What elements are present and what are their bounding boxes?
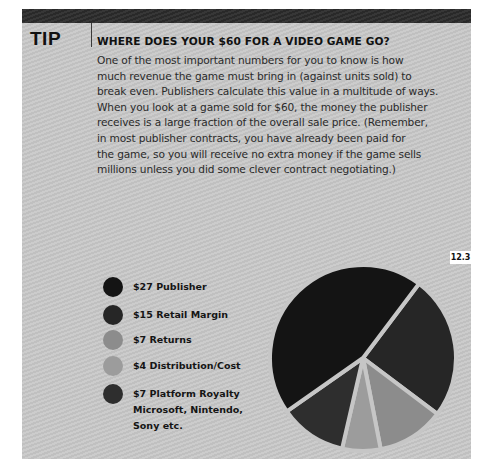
legend-label: $7 Returns [133,330,192,348]
legend-swatch-icon [103,384,123,404]
legend-item-retail-margin: $15 Retail Margin [103,305,228,325]
legend-label: $15 Retail Margin [133,305,228,323]
body-line: break even. Publishers calculate this va… [97,84,467,100]
legend-item-distribution: $4 Distribution/Cost [103,356,241,376]
tip-panel: TIP WHERE DOES YOUR $60 FOR A VIDEO GAME… [22,9,471,459]
page-margin [471,0,494,476]
legend-swatch-icon [103,277,123,297]
tip-label: TIP [30,28,61,50]
legend-label: $7 Platform Royalty Microsoft, Nintendo,… [133,384,243,434]
body-line: receives is a large fraction of the over… [97,115,467,131]
tip-heading: WHERE DOES YOUR $60 FOR A VIDEO GAME GO? [97,35,390,47]
legend-item-publisher: $27 Publisher [103,277,207,297]
legend-label-sub: Microsoft, Nintendo, [133,402,243,418]
pie-chart [268,263,458,453]
legend-swatch-icon [103,330,123,350]
legend-label: $4 Distribution/Cost [133,356,241,374]
legend-item-returns: $7 Returns [103,330,192,350]
body-line: millions unless you did some clever cont… [97,162,467,178]
body-line: When you look at a game sold for $60, th… [97,100,467,116]
tip-body: One of the most important numbers for yo… [97,53,467,178]
legend-item-platform-royalty: $7 Platform Royalty Microsoft, Nintendo,… [103,384,243,434]
legend-label-sub: Sony etc. [133,418,243,434]
body-line: much revenue the game must bring in (aga… [97,69,467,85]
body-line: the game, so you will receive no extra m… [97,147,467,163]
legend-label: $27 Publisher [133,277,207,295]
body-line: in most publisher contracts, you have al… [97,131,467,147]
legend-swatch-icon [103,356,123,376]
legend-label-main: $7 Platform Royalty [133,388,240,399]
vertical-divider [91,23,92,47]
legend-swatch-icon [103,305,123,325]
body-line: One of the most important numbers for yo… [97,53,467,69]
panel-top-bar [22,9,471,23]
